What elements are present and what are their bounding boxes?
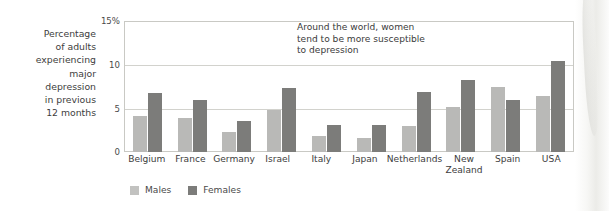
- y-tick-15: 15%: [94, 16, 120, 26]
- bar-males: [536, 96, 550, 152]
- bar-females: [327, 125, 341, 152]
- x-tick-label: Belgium: [125, 154, 169, 177]
- bar-females: [506, 100, 520, 152]
- x-tick-label-line: Zealand: [442, 165, 486, 176]
- legend-item-males: Males: [130, 185, 171, 195]
- x-tick-label: USA: [529, 154, 573, 177]
- bar-group: [528, 22, 573, 152]
- legend-swatch-males-icon: [130, 186, 139, 195]
- legend-swatch-females-icon: [188, 186, 197, 195]
- y-axis-label-line: in previous: [8, 93, 96, 106]
- y-axis-label-line: Percentage: [8, 27, 96, 40]
- chart-legend: Males Females: [130, 185, 241, 195]
- x-tick-label: Netherlands: [387, 154, 442, 177]
- x-tick-label-line: Germany: [212, 154, 256, 165]
- bar-group: [215, 22, 260, 152]
- y-axis-label: Percentage of adults experiencing major …: [8, 27, 96, 119]
- x-tick-label-line: Netherlands: [387, 154, 442, 165]
- y-axis-label-line: of adults: [8, 40, 96, 53]
- y-tick-5: 5: [94, 104, 120, 114]
- bar-females: [237, 121, 251, 152]
- y-axis-label-line: 12 months: [8, 106, 96, 119]
- x-tick-label-line: France: [169, 154, 213, 165]
- bar-females: [461, 80, 475, 152]
- x-tick-label: Israel: [256, 154, 300, 177]
- y-axis-label-line: experiencing: [8, 53, 96, 66]
- bar-males: [178, 118, 192, 152]
- x-tick-label: Germany: [212, 154, 256, 177]
- y-tick-10: 10: [94, 60, 120, 70]
- bar-females: [148, 93, 162, 152]
- legend-label-females: Females: [203, 185, 241, 195]
- x-tick-label: NewZealand: [442, 154, 486, 177]
- bar-males: [133, 116, 147, 152]
- y-tick-0: 0: [94, 147, 120, 157]
- annotation-line-1: Around the world, women: [297, 22, 517, 34]
- y-axis-label-line: depression: [8, 80, 96, 93]
- bar-males: [357, 138, 371, 152]
- bar-males: [222, 132, 236, 152]
- x-tick-label-line: Israel: [256, 154, 300, 165]
- annotation-line-3: to depression: [297, 45, 517, 57]
- x-tick-label-line: New: [442, 154, 486, 165]
- x-tick-label-line: Italy: [300, 154, 344, 165]
- x-tick-label-line: Spain: [486, 154, 530, 165]
- x-tick-label-line: USA: [529, 154, 573, 165]
- bar-group: [170, 22, 215, 152]
- bar-females: [417, 92, 431, 152]
- x-tick-label-line: Japan: [343, 154, 387, 165]
- legend-label-males: Males: [145, 185, 171, 195]
- legend-item-females: Females: [188, 185, 241, 195]
- bar-females: [282, 88, 296, 152]
- chart-annotation: Around the world, women tend to be more …: [297, 22, 517, 57]
- y-axis-label-line: major: [8, 67, 96, 80]
- x-tick-label: Italy: [300, 154, 344, 177]
- bar-males: [267, 110, 281, 152]
- x-tick-label: Japan: [343, 154, 387, 177]
- x-tick-label-line: Belgium: [125, 154, 169, 165]
- bar-females: [551, 61, 565, 152]
- annotation-line-2: tend to be more susceptible: [297, 34, 517, 46]
- x-tick-label: France: [169, 154, 213, 177]
- bar-males: [446, 107, 460, 152]
- x-tick-label: Spain: [486, 154, 530, 177]
- bar-males: [491, 87, 505, 152]
- bar-males: [312, 136, 326, 152]
- x-axis-labels: BelgiumFranceGermanyIsraelItalyJapanNeth…: [125, 154, 573, 177]
- bar-group: [125, 22, 170, 152]
- bar-males: [402, 126, 416, 152]
- bar-females: [372, 125, 386, 152]
- depression-by-gender-bar-chart: Percentage of adults experiencing major …: [0, 0, 609, 211]
- bar-females: [193, 100, 207, 152]
